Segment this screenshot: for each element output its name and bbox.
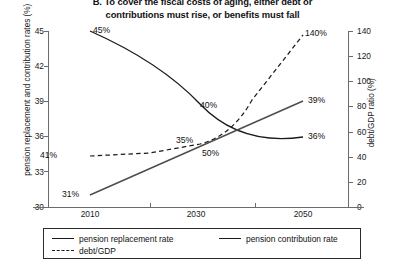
legend-label-debt-gdp: debt/GDP [79,246,116,256]
chart-legend: pension replacement rate pension contrib… [43,228,361,259]
x-axis-minor-ticks [151,203,256,207]
legend-item-replacement[interactable]: pension replacement rate [52,234,174,244]
data-label-debt-2050: 140% [305,28,327,38]
data-label-contribution-2010: 31% [62,189,79,199]
legend-label-contribution: pension contribution rate [246,234,338,244]
data-label-debt-2030: 50% [202,148,219,158]
y-axis-left-ticks [44,32,48,208]
series-pension-replacement-rate [90,31,303,139]
legend-item-contribution[interactable]: pension contribution rate [219,234,338,244]
data-label-replacement-2030: 40% [200,100,217,110]
legend-line-solid-icon [52,235,74,243]
data-label-replacement-2010: 45% [93,25,110,35]
legend-item-debt-gdp[interactable]: debt/GDP [52,246,116,256]
legend-line-dashed-icon [52,247,74,255]
data-label-contribution-2030: 35% [176,135,193,145]
chart-plot-area [0,0,405,264]
data-label-replacement-2050: 36% [308,131,325,141]
data-label-contribution-2050: 39% [308,95,325,105]
series-pension-contribution-rate [90,101,303,195]
y-axis-right-ticks [349,32,353,208]
legend-line-solid-icon [219,235,241,243]
legend-label-replacement: pension replacement rate [79,234,174,244]
chart-figure: B. To cover the fiscal costs of aging, e… [0,0,405,264]
data-label-debt-2010: 41% [40,150,57,160]
